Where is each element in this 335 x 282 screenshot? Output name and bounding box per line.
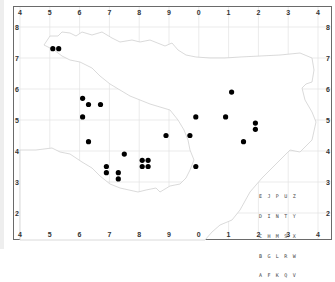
x-tick-bottom: 7 — [107, 231, 111, 238]
occurrence-dot — [193, 164, 198, 169]
occurrence-dot — [80, 114, 85, 119]
occurrence-dot — [116, 170, 121, 175]
occurrence-dot — [187, 133, 192, 138]
y-tick-left: 6 — [15, 86, 19, 93]
x-tick-bottom: 1 — [227, 231, 231, 238]
occurrence-dot — [241, 139, 246, 144]
occurrence-dot — [56, 46, 61, 51]
y-tick-right: 2 — [326, 210, 330, 217]
y-tick-left: 5 — [15, 117, 19, 124]
tetrad-key-row: B G L R W — [259, 253, 297, 260]
x-tick-top: 4 — [316, 9, 320, 16]
x-tick-top: 6 — [78, 9, 82, 16]
x-tick-top: 3 — [286, 9, 290, 16]
occurrence-dot — [122, 152, 127, 157]
x-tick-bottom: 5 — [48, 231, 52, 238]
occurrence-dot — [229, 90, 234, 95]
y-tick-right: 7 — [326, 55, 330, 62]
x-tick-top: 5 — [48, 9, 52, 16]
x-tick-top: 0 — [197, 9, 201, 16]
occurrence-dot — [86, 102, 91, 107]
occurrence-dot — [104, 170, 109, 175]
x-tick-top: 7 — [107, 9, 111, 16]
occurrence-dot — [140, 158, 145, 163]
x-tick-top: 9 — [167, 9, 171, 16]
x-tick-bottom: 8 — [137, 231, 141, 238]
x-tick-top: 4 — [18, 9, 22, 16]
occurrence-dot — [193, 114, 198, 119]
x-tick-top: 1 — [227, 9, 231, 16]
x-tick-top: 8 — [137, 9, 141, 16]
y-tick-left: 3 — [15, 179, 19, 186]
x-tick-bottom: 4 — [18, 231, 22, 238]
tetrad-key: E J P U Z D I N T Y C H M S X B G L R W … — [259, 180, 297, 282]
y-tick-right: 4 — [326, 148, 330, 155]
occurrence-dot — [80, 96, 85, 101]
tetrad-key-row: D I N T Y — [259, 213, 297, 220]
x-tick-bottom: 9 — [167, 231, 171, 238]
occurrence-dot — [98, 102, 103, 107]
occurrence-dot — [50, 46, 55, 51]
tetrad-key-row: C H M S X — [259, 233, 297, 240]
occurrence-dot — [253, 121, 258, 126]
occurrence-dot — [253, 127, 258, 132]
tetrad-key-row: E J P U Z — [259, 193, 297, 200]
occurrence-dot — [140, 164, 145, 169]
y-tick-right: 8 — [326, 24, 330, 31]
y-tick-left: 8 — [15, 24, 19, 31]
x-tick-bottom: 0 — [197, 231, 201, 238]
x-tick-bottom: 6 — [78, 231, 82, 238]
occurrence-dot — [104, 164, 109, 169]
x-tick-bottom: 4 — [316, 231, 320, 238]
x-tick-top: 2 — [256, 9, 260, 16]
occurrence-dot — [223, 114, 228, 119]
occurrence-dot — [86, 139, 91, 144]
y-tick-left: 2 — [15, 210, 19, 217]
y-tick-left: 4 — [15, 148, 19, 155]
y-tick-right: 3 — [326, 179, 330, 186]
occurrence-dot — [116, 176, 121, 181]
occurrence-dot — [146, 158, 151, 163]
occurrence-dot — [146, 164, 151, 169]
occurrence-dot — [163, 133, 168, 138]
y-tick-right: 6 — [326, 86, 330, 93]
tetrad-key-row: A F K Q V — [259, 272, 297, 279]
y-tick-left: 7 — [15, 55, 19, 62]
y-tick-right: 5 — [326, 117, 330, 124]
